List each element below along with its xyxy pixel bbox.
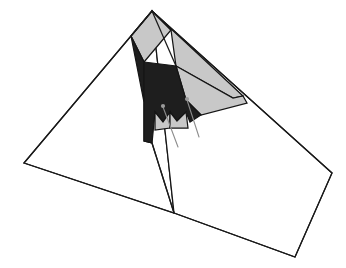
pyramid-diagram-svg — [0, 0, 346, 268]
pin-head-left — [161, 104, 165, 108]
pin-head-right — [185, 97, 189, 101]
figure-root: Shaded polygonal pyramid line drawing — [0, 0, 346, 268]
